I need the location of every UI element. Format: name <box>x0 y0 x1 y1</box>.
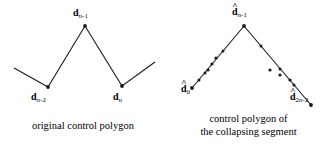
control-polygon-path <box>14 26 155 87</box>
figure-page: dn-1 dn-2 dn original control polygon <box>0 0 331 147</box>
label-d-hat-0-sub: 0 <box>187 88 191 96</box>
label-d-hat-2n-minus-2: ^d2n-2 <box>290 92 308 104</box>
label-d-hat-0: ^d0 <box>181 84 190 96</box>
vertex-dot-d-hat-2n-minus-2 <box>309 103 313 107</box>
label-d-hat-n-minus-1: ^dn-1 <box>232 7 247 19</box>
label-d-hat-2n-minus-2-sub: 2n-2 <box>296 96 309 104</box>
vertex-dot-d-n-minus-1 <box>83 24 87 28</box>
ellipsis-dot-left-3 <box>214 56 217 59</box>
label-d-n-minus-2: dn-2 <box>31 92 46 104</box>
caption-line-2: the collapsing segment <box>166 125 331 138</box>
label-d-hat-n-minus-1-sub: n-1 <box>238 11 247 19</box>
ellipsis-dot-left-1 <box>206 68 209 71</box>
caption-line-1: original control polygon <box>0 119 166 132</box>
ellipsis-dot-right-2 <box>278 73 281 76</box>
label-d-n-sub: n <box>119 96 123 104</box>
hat-accent-icon: ^ <box>232 2 237 11</box>
caption-collapsing-segment: control polygon of the collapsing segmen… <box>166 112 331 138</box>
ellipsis-dot-right-3 <box>288 78 291 81</box>
caption-original-control-polygon: original control polygon <box>0 119 166 132</box>
interior-point-left-2 <box>204 72 207 75</box>
hat-accent-icon: ^ <box>181 79 186 88</box>
vertex-dot-d-hat-n-minus-1 <box>242 24 246 28</box>
figure-collapsing-segment-control-polygon: ^dn-1 ^d0 ^d2n-2 control polygon of the … <box>166 0 331 147</box>
label-d-hat-n-minus-1-basewrap: ^d <box>232 7 238 18</box>
label-d-n: dn <box>113 92 122 104</box>
figure-original-control-polygon: dn-1 dn-2 dn original control polygon <box>0 0 166 147</box>
caption-line-1: control polygon of <box>166 112 331 125</box>
hat-accent-icon: ^ <box>290 87 295 96</box>
label-d-n-minus-1-sub: n-1 <box>79 12 88 20</box>
label-d-hat-0-basewrap: ^d <box>181 84 187 95</box>
interior-point-left-1 <box>198 79 201 82</box>
label-d-hat-2n-minus-2-basewrap: ^d <box>290 92 296 103</box>
interior-point-right-2 <box>279 68 282 71</box>
vertex-dot-d-hat-0 <box>190 86 194 90</box>
ellipsis-dot-left-2 <box>210 62 213 65</box>
ellipsis-dot-right-1 <box>268 68 271 71</box>
vertex-dot-d-n-minus-2 <box>46 85 50 89</box>
interior-point-right-1 <box>260 45 263 48</box>
vertex-dot-d-n <box>120 84 124 88</box>
interior-point-left-3 <box>222 50 225 53</box>
label-d-n-minus-1: dn-1 <box>73 8 88 20</box>
label-d-n-minus-2-sub: n-2 <box>37 96 46 104</box>
